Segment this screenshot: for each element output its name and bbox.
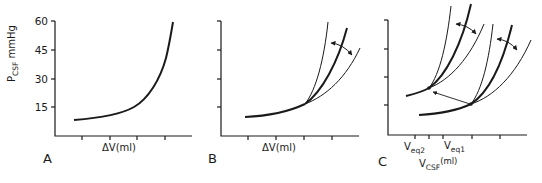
panel-b-plot <box>217 21 360 140</box>
panel-a-letter: A <box>43 152 52 165</box>
y-tick-label-60: 60 <box>26 16 48 26</box>
panel-b-axes <box>221 21 359 136</box>
y-tick-label-15: 15 <box>26 102 48 112</box>
panel-b-base-curve <box>245 104 305 117</box>
y-tick-label-30: 30 <box>26 74 48 84</box>
vcsf-unit: (ml) <box>440 156 457 166</box>
panel-c-veq1-steep-curve <box>471 24 493 104</box>
panel-b-x-axis-label: ΔV(ml) <box>262 143 296 153</box>
y-axis-label-sub: CSF <box>11 62 20 76</box>
panel-c-shift-arrow <box>433 92 470 104</box>
y-axis-label: PCSF mmHg <box>6 25 17 82</box>
y-axis-label-main: P <box>6 76 17 82</box>
veq2-main: V <box>404 141 411 152</box>
veq1-sub: eq1 <box>451 145 465 154</box>
panel-a-plot <box>51 21 192 140</box>
panel-a-pv-curve <box>74 22 173 120</box>
panel-c-veq2-base-curve <box>406 88 429 96</box>
vcsf-sub: CSF <box>426 163 440 172</box>
veq1-main: V <box>444 140 451 151</box>
panel-a-axes <box>55 21 192 136</box>
panel-c-veq2-point <box>427 86 431 90</box>
veq2-sub: eq2 <box>411 146 425 155</box>
figure-graphics <box>0 0 542 183</box>
panel-c-veq2-label: Veq2 <box>404 142 425 153</box>
panel-c-x-axis-label: VCSF(ml) <box>419 159 457 170</box>
y-axis-label-unit: mmHg <box>6 25 17 62</box>
panel-c-axes <box>388 20 527 135</box>
panel-b-letter: B <box>208 152 217 165</box>
panel-c-veq1-shallow-curve <box>471 40 531 104</box>
panel-c-plot <box>384 4 531 139</box>
vcsf-main: V <box>419 158 426 169</box>
panel-c-veq2-steep-curve <box>429 6 451 88</box>
y-tick-label-45: 45 <box>26 45 48 55</box>
panel-c-veq1-base-curve <box>419 104 471 115</box>
panel-c-veq1-label: Veq1 <box>444 141 465 152</box>
panel-a-x-axis-label: ΔV(ml) <box>102 143 136 153</box>
pressure-volume-figure: PCSF mmHg 60 45 30 15 ΔV(ml) A ΔV(ml) B … <box>0 0 542 183</box>
panel-c-letter: C <box>378 155 387 168</box>
